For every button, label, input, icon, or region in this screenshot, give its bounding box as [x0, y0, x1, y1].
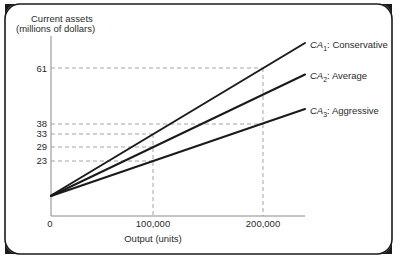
legend-ca3: CA3: Aggressive — [310, 105, 379, 118]
y-tick-23: 23 — [36, 155, 47, 166]
x-tick-labels: 0 100,000 200,000 — [47, 218, 280, 229]
y-tick-61: 61 — [36, 63, 47, 74]
x-tick-200000: 200,000 — [246, 218, 280, 229]
x-tick-100000: 100,000 — [136, 218, 170, 229]
series-lines — [51, 43, 305, 196]
chart-figure: Current assets (millions of dollars) 61 … — [0, 0, 400, 260]
series-ca2-average — [51, 75, 305, 197]
x-axis-label: Output (units) — [124, 233, 182, 244]
y-tick-33: 33 — [36, 128, 47, 139]
axes — [51, 36, 305, 216]
legend-ca1: CA1: Conservative — [310, 39, 388, 52]
legend-ca2: CA2: Average — [310, 70, 367, 83]
reference-lines — [51, 68, 263, 216]
series-ca3-aggressive — [51, 109, 305, 196]
y-axis-label-line2: (millions of dollars) — [16, 23, 95, 34]
series-ca1-conservative — [51, 43, 305, 196]
x-tick-0: 0 — [47, 218, 52, 229]
y-tick-29: 29 — [36, 141, 47, 152]
y-tick-labels: 61 38 33 29 23 — [36, 63, 47, 166]
series-labels: CA1: Conservative CA2: Average CA3: Aggr… — [310, 39, 388, 118]
